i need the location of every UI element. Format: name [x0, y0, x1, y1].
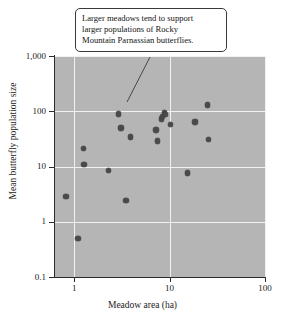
- callout-line-3: Mountain Parnassian butterflies.: [82, 35, 221, 46]
- gridline-vertical: [74, 56, 75, 277]
- plot-area: [55, 56, 265, 277]
- data-point: [81, 146, 86, 151]
- x-axis-spine: [54, 277, 266, 278]
- gridline-horizontal: [55, 56, 265, 57]
- x-axis-tick: [170, 277, 171, 282]
- y-axis-tick-label: 1,000: [26, 52, 46, 61]
- y-axis-tick: [49, 222, 54, 223]
- scatter-chart-figure: 1,0001001010.1110100 Mean butterfly popu…: [0, 0, 285, 320]
- data-point: [155, 138, 160, 143]
- data-point: [185, 170, 190, 175]
- data-point: [163, 112, 168, 117]
- gridline-vertical: [265, 56, 266, 277]
- data-point: [106, 168, 111, 173]
- y-axis-spine: [54, 55, 55, 278]
- x-axis-tick-label: 1: [72, 284, 77, 293]
- data-point: [81, 162, 86, 167]
- gridline-horizontal: [55, 111, 265, 112]
- data-point: [63, 194, 68, 199]
- x-axis-tick-label: 100: [258, 284, 272, 293]
- data-point: [118, 125, 123, 130]
- x-axis-label: Meadow area (ha): [0, 300, 285, 310]
- data-point: [123, 198, 128, 203]
- data-point: [153, 127, 158, 132]
- y-axis-tick: [49, 56, 54, 57]
- gridline-horizontal: [55, 222, 265, 223]
- data-point: [192, 119, 197, 124]
- y-axis-tick-label: 100: [33, 107, 47, 116]
- data-point: [116, 111, 121, 116]
- callout-line-2: larger populations of Rocky: [82, 24, 221, 35]
- data-point: [206, 137, 211, 142]
- data-point: [128, 134, 133, 139]
- gridline-vertical: [170, 56, 171, 277]
- y-axis-tick: [49, 111, 54, 112]
- callout-line-1: Larger meadows tend to support: [82, 13, 221, 24]
- gridline-horizontal: [55, 167, 265, 168]
- x-axis-tick: [74, 277, 75, 282]
- y-axis-tick-label: 1: [42, 217, 47, 226]
- y-axis-tick-label: 10: [37, 162, 46, 171]
- y-axis-tick: [49, 277, 54, 278]
- y-axis-label: Mean butterfly population size: [8, 66, 18, 216]
- x-axis-tick-label: 10: [165, 284, 174, 293]
- data-point: [205, 102, 210, 107]
- data-point: [168, 122, 173, 127]
- y-axis-tick: [49, 167, 54, 168]
- data-point: [75, 236, 80, 241]
- y-axis-tick-label: 0.1: [35, 273, 46, 282]
- trend-callout-box: Larger meadows tend to support larger po…: [75, 8, 227, 52]
- x-axis-tick: [265, 277, 266, 282]
